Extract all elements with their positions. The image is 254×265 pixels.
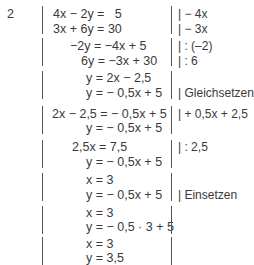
equation-line: y = − 0,5x + 5	[86, 155, 162, 169]
operation-note: | − 4x	[178, 7, 207, 21]
left-bar	[42, 140, 43, 168]
equation-line: y = − 0,5x + 5	[86, 121, 162, 135]
equation-line: x = 3	[86, 237, 113, 251]
equation-line: y = − 0,5 · 3 + 5	[86, 220, 174, 234]
exercise-number: 2	[7, 7, 14, 21]
right-bar	[171, 6, 172, 34]
equation-line: 3x + 6y = 30	[53, 22, 122, 36]
operation-note: | + 0,5x + 2,5	[178, 107, 248, 121]
operation-note: | : (–2)	[178, 39, 212, 53]
right-bar	[171, 38, 172, 66]
equation-line: 6y = −3x + 30	[81, 54, 157, 68]
right-bar	[171, 237, 172, 265]
left-bar	[42, 173, 43, 201]
equation-line: x = 3	[86, 206, 113, 220]
equation-line: 4x − 2y = 5	[53, 7, 122, 21]
equation-line: −2y = −4x + 5	[70, 39, 146, 53]
left-bar	[42, 71, 43, 99]
operation-note: | : 2,5	[178, 140, 208, 154]
right-bar	[171, 71, 172, 99]
left-bar	[42, 206, 43, 234]
equation-line: y = 3,5	[86, 251, 124, 265]
right-bar	[171, 106, 172, 134]
left-bar	[42, 237, 43, 265]
equation-line: 2,5x = 7,5	[72, 140, 127, 154]
equation-line: y = 2x − 2,5	[86, 71, 151, 85]
operation-note: | Gleichsetzen	[178, 86, 254, 100]
equation-line: 2x − 2,5 = − 0,5x + 5	[52, 107, 167, 121]
left-bar	[42, 106, 43, 134]
right-bar	[171, 206, 172, 234]
right-bar	[171, 173, 172, 201]
equation-line: y = − 0,5x + 5	[86, 188, 162, 202]
equation-line: y = − 0,5x + 5	[86, 86, 162, 100]
operation-note: | − 3x	[178, 22, 207, 36]
left-bar	[42, 6, 43, 34]
equation-line: x = 3	[86, 173, 113, 187]
operation-note: | : 6	[178, 54, 198, 68]
right-bar	[171, 140, 172, 168]
left-bar	[42, 38, 43, 66]
operation-note: | Einsetzen	[178, 188, 237, 202]
